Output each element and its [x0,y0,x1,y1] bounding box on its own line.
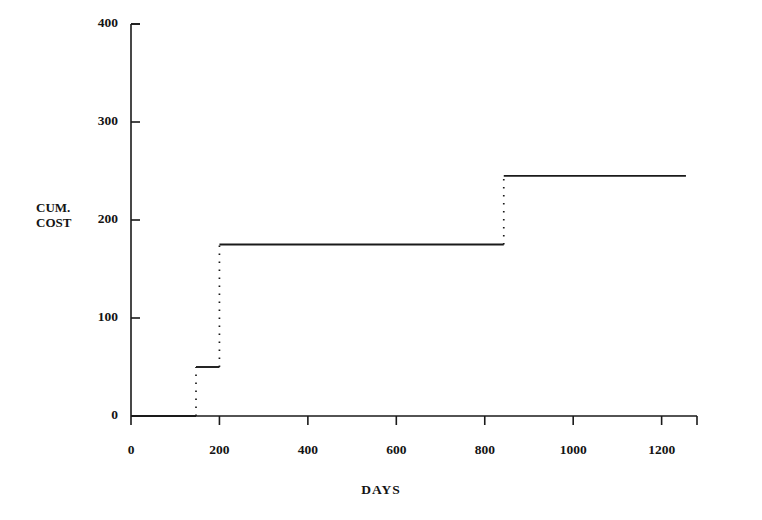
cumulative-cost-step-chart: 0100200300400 020040060080010001200 CUM.… [0,0,762,520]
y-tick-label: 200 [66,211,118,227]
y-axis-ticks [131,24,140,416]
y-axis-title-line-1: CUM. [36,200,71,215]
x-tick-label: 800 [445,442,525,458]
x-axis-ticks [131,416,662,425]
y-tick-label: 0 [66,407,118,423]
x-tick-label: 200 [179,442,259,458]
x-tick-label: 0 [91,442,171,458]
x-tick-label: 400 [268,442,348,458]
step-tread-group [131,176,686,416]
x-tick-label: 600 [356,442,436,458]
y-tick-label: 100 [66,309,118,325]
y-tick-label: 300 [66,113,118,129]
x-axis-title: DAYS [0,482,762,498]
step-riser-group [196,176,504,416]
y-axis-title: CUM. COST [36,200,71,230]
y-tick-label: 400 [66,15,118,31]
x-tick-label: 1200 [622,442,702,458]
x-tick-label: 1000 [533,442,613,458]
y-axis-title-line-2: COST [36,215,71,230]
